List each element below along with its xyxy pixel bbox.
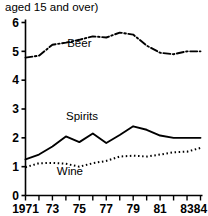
x-tick-label: 84 [194, 202, 208, 216]
chart-plot-area: 0123456 197173757779818384 BeerSpiritsWi… [0, 0, 208, 215]
y-axis: 0123456 [12, 16, 25, 203]
x-tick-label: 81 [153, 202, 167, 216]
series-labels: BeerSpiritsWine [57, 37, 98, 177]
y-tick-label: 3 [12, 102, 19, 116]
y-tick-label: 4 [12, 73, 19, 87]
x-tick-label: 77 [100, 202, 114, 216]
series-line-wine [26, 148, 201, 167]
y-tick-label: 5 [12, 45, 19, 59]
series-lines [26, 33, 201, 168]
x-tick-label: 1971 [12, 202, 39, 216]
x-tick-label: 75 [73, 202, 87, 216]
x-axis: 197173757779818384 [12, 196, 207, 216]
y-tick-label: 1 [12, 160, 19, 174]
series-label-spirits: Spirits [66, 110, 98, 122]
x-tick-label: 73 [46, 202, 60, 216]
y-tick-label: 2 [12, 131, 19, 145]
series-label-beer: Beer [67, 37, 91, 49]
series-label-wine: Wine [57, 165, 83, 177]
series-line-beer [26, 33, 201, 58]
x-tick-label: 79 [127, 202, 141, 216]
series-line-spirits [26, 126, 201, 159]
x-tick-label: 83 [180, 202, 194, 216]
y-tick-label: 6 [12, 16, 19, 30]
alcohol-consumption-line-chart: aged 15 and over) 0123456 19717375777981… [0, 0, 208, 215]
